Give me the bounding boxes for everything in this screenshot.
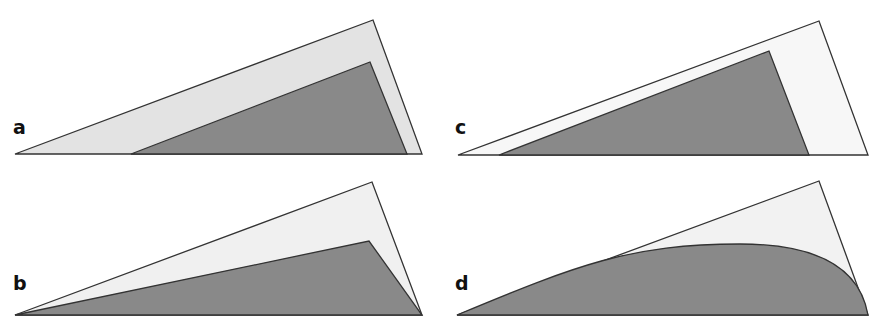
panel-a-label: a [13, 116, 26, 138]
panel-b: b [13, 182, 422, 315]
panel-b-label: b [13, 272, 27, 294]
panel-d: d [455, 181, 868, 315]
panel-c-inner-triangle [499, 51, 809, 155]
panel-c-label: c [455, 116, 466, 138]
panel-d-label: d [455, 272, 469, 294]
panel-c: c [455, 21, 868, 155]
panel-d-inner-curve [457, 244, 868, 315]
panel-a: a [13, 20, 422, 154]
triangle-diagram: a b c d [0, 0, 876, 331]
